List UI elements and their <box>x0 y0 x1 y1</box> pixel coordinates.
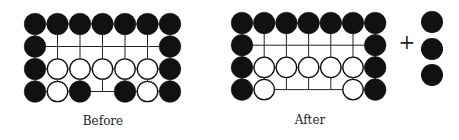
plus-sign: + <box>399 32 416 52</box>
black-stone <box>320 12 342 34</box>
black-stone <box>159 13 181 35</box>
white-stone <box>343 57 363 77</box>
black-stone <box>364 57 386 79</box>
white-stone <box>47 81 67 101</box>
black-stone <box>24 81 46 103</box>
black-stone <box>24 58 46 80</box>
black-stone <box>69 81 91 103</box>
black-stone <box>114 13 136 35</box>
white-stone <box>254 79 274 99</box>
black-stone <box>159 36 181 58</box>
black-stone <box>24 36 46 58</box>
white-stone <box>254 57 274 77</box>
go-diagram <box>0 0 459 140</box>
label-before: Before <box>83 114 123 128</box>
black-stone <box>114 81 136 103</box>
label-after: After <box>295 113 326 127</box>
board-before <box>24 13 181 102</box>
white-stone <box>137 81 157 101</box>
white-stone <box>276 57 296 77</box>
black-stone <box>298 12 320 34</box>
white-stone <box>92 59 112 79</box>
black-stone <box>231 12 253 34</box>
white-stone <box>343 79 363 99</box>
white-stone <box>321 57 341 77</box>
white-stone <box>70 59 90 79</box>
black-stone <box>364 12 386 34</box>
white-stone <box>115 59 135 79</box>
board-after <box>231 12 386 100</box>
white-stone <box>137 59 157 79</box>
captured-black-stone <box>421 38 443 60</box>
black-stone <box>47 13 69 35</box>
black-stone <box>364 79 386 101</box>
black-stone <box>364 34 386 56</box>
black-stone <box>253 12 275 34</box>
black-stone <box>159 58 181 80</box>
black-stone <box>92 13 114 35</box>
black-stone <box>24 13 46 35</box>
black-stone <box>342 12 364 34</box>
captured-black-stone <box>421 11 443 33</box>
white-stone <box>298 57 318 77</box>
black-stone <box>69 13 91 35</box>
white-stone <box>47 59 67 79</box>
black-stone <box>231 34 253 56</box>
black-stone <box>137 13 159 35</box>
black-stone <box>231 57 253 79</box>
black-stone <box>159 81 181 103</box>
captured-stones <box>421 11 443 86</box>
captured-black-stone <box>421 64 443 86</box>
black-stone <box>231 79 253 101</box>
black-stone <box>276 12 298 34</box>
